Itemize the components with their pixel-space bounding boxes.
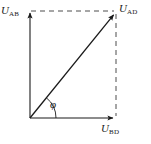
phasor-diagram-figure: UAB UAD UBD φ [0,0,151,144]
label-u-bd-symbol: U [101,122,109,134]
label-u-bd-subscript: BD [109,128,119,136]
label-u-ad-symbol: U [119,2,127,14]
vector-u-ad [30,15,114,118]
label-u-ad: UAD [119,3,138,14]
label-u-bd: UBD [101,123,119,134]
label-u-ab-symbol: U [1,4,9,16]
label-phi-angle: φ [50,99,56,110]
label-u-ab: UAB [1,5,19,16]
label-u-ad-subscript: AD [127,8,138,16]
label-u-ab-subscript: AB [9,10,19,18]
phasor-diagram-svg [0,0,151,144]
